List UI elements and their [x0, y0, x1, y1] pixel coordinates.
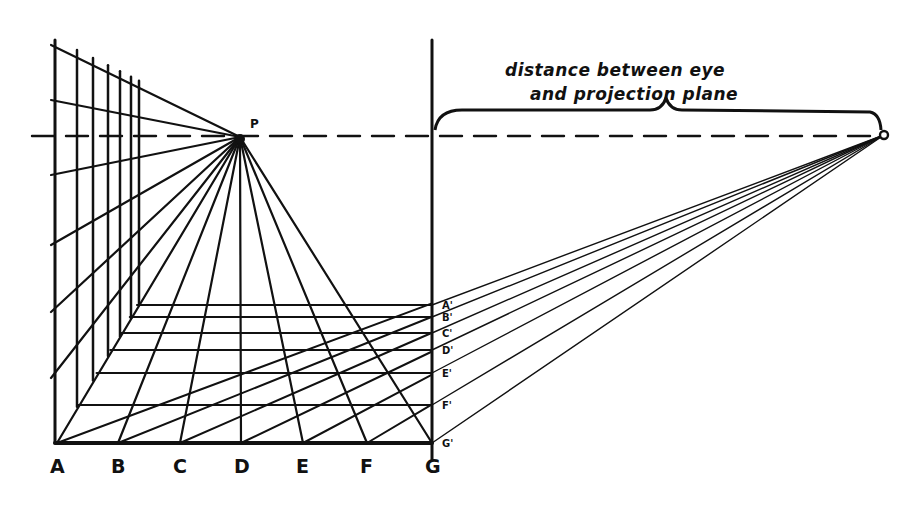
- structural-lines: [32, 40, 888, 460]
- ground-label-e: E: [296, 455, 309, 477]
- wall-ray: [51, 137, 240, 175]
- ground-label-f: F: [360, 455, 373, 477]
- left-wall-grid: [51, 40, 240, 443]
- plane-label-e: E': [442, 368, 452, 379]
- vanishing-ray: [57, 137, 240, 443]
- ground-label-d: D: [234, 455, 250, 477]
- diagram-canvas: ABCDEFGA'B'C'D'E'F'G' distance between e…: [0, 0, 920, 506]
- perspective-diagram: ABCDEFGA'B'C'D'E'F'G' distance between e…: [0, 0, 920, 506]
- wall-ray: [51, 45, 240, 137]
- ground-label-c: C: [173, 455, 187, 477]
- caption-line-2: and projection plane: [530, 84, 738, 104]
- plane-label-d: D': [442, 345, 453, 356]
- distance-point-marker: [880, 131, 888, 139]
- distance-ray: [432, 135, 884, 373]
- vanishing-point-marker: [235, 134, 245, 144]
- distance-point-rays: [57, 135, 884, 443]
- wall-ray: [51, 137, 240, 245]
- vanishing-ray: [240, 137, 367, 443]
- wall-ray: [51, 137, 240, 378]
- vanishing-rays: [57, 137, 432, 443]
- distance-ray: [432, 135, 884, 350]
- vanishing-ray: [240, 137, 303, 443]
- plane-label-g: G': [442, 438, 453, 449]
- diagonal-inside: [303, 375, 432, 443]
- vanishing-ray: [240, 137, 241, 443]
- plane-label-f: F': [442, 400, 452, 411]
- diagonal-inside: [118, 317, 432, 443]
- caption-line-1: distance between eye: [505, 60, 725, 80]
- ground-label-a: A: [50, 455, 65, 477]
- ground-label-g: G: [425, 455, 441, 477]
- plane-label-c: C': [442, 328, 452, 339]
- distance-ray: [432, 135, 884, 333]
- distance-ray: [432, 135, 884, 405]
- diagonal-inside: [367, 404, 432, 443]
- vanishing-point-label: P: [250, 117, 259, 131]
- wall-ray: [51, 100, 240, 137]
- plane-label-a: A': [442, 300, 453, 311]
- ground-label-b: B: [111, 455, 125, 477]
- distance-ray: [432, 135, 884, 305]
- plane-label-b: B': [442, 312, 453, 323]
